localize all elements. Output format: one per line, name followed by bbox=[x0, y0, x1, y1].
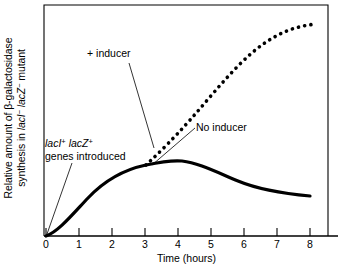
curve-plus-inducer bbox=[146, 25, 312, 166]
x-tick-label-1: 1 bbox=[69, 238, 89, 250]
annotation-gene-lacz: lacZ bbox=[69, 137, 89, 149]
leader-line-genes-introduced bbox=[47, 163, 72, 234]
x-tick-label-3: 3 bbox=[135, 238, 155, 250]
y-axis-title-line2: synthesis in lacI− lacZ− mutant bbox=[15, 49, 28, 187]
x-tick-label-4: 4 bbox=[168, 238, 188, 250]
x-tick-label-7: 7 bbox=[267, 238, 287, 250]
y-axis-gene-laci: lacI bbox=[15, 114, 27, 130]
y-axis-title-prefix: synthesis in bbox=[15, 130, 27, 186]
figure-lac-operon-synthesis-chart: Relative amount of β-galactosidase synth… bbox=[0, 0, 351, 270]
y-axis-gene-lacz-superscript: − bbox=[15, 84, 24, 88]
leader-line-plus-inducer bbox=[129, 63, 154, 148]
x-tick-label-6: 6 bbox=[234, 238, 254, 250]
annotation-genes-line1: lacI+ lacZ+ bbox=[45, 137, 126, 150]
annotation-genes-introduced: lacI+ lacZ+ genes introduced bbox=[45, 137, 126, 162]
x-tick-label-2: 2 bbox=[102, 238, 122, 250]
y-axis-title-suffix: mutant bbox=[15, 49, 27, 83]
annotation-gene-lacz-superscript: + bbox=[89, 137, 93, 146]
y-axis-gene-lacz: lacZ bbox=[15, 88, 27, 107]
y-axis-title: Relative amount of β-galactosidase synth… bbox=[2, 0, 42, 236]
x-tick-label-0: 0 bbox=[36, 238, 56, 250]
x-axis-ticks bbox=[46, 228, 310, 236]
annotation-no-inducer: No inducer bbox=[196, 121, 247, 134]
annotation-gene-laci-superscript: + bbox=[61, 137, 65, 146]
y-axis-title-line1: Relative amount of β-galactosidase bbox=[2, 38, 15, 199]
curve-no-inducer bbox=[46, 161, 310, 236]
x-tick-label-5: 5 bbox=[201, 238, 221, 250]
x-axis-title: Time (hours) bbox=[44, 252, 329, 264]
annotation-gene-laci: lacI bbox=[45, 137, 61, 149]
chart-plot-area bbox=[0, 0, 351, 270]
annotation-genes-line2: genes introduced bbox=[45, 150, 126, 163]
y-axis-gene-laci-superscript: − bbox=[15, 110, 24, 114]
x-tick-label-8: 8 bbox=[300, 238, 320, 250]
annotation-plus-inducer: + inducer bbox=[87, 47, 131, 60]
